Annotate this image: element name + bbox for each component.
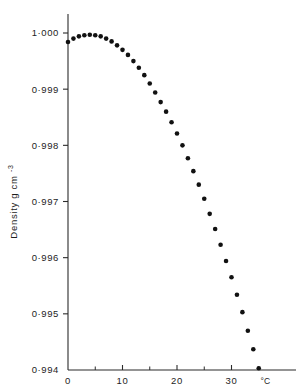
x-tick-label: 0 (65, 375, 71, 386)
density-temperature-figure: 0·9940·9950·9960·9970·9980·9991·000 0102… (0, 0, 304, 392)
data-point (158, 100, 163, 105)
y-tick-label: 0·994 (32, 364, 59, 375)
data-point (191, 169, 196, 174)
scatter-plot: 0·9940·9950·9960·9970·9980·9991·000 0102… (0, 0, 304, 392)
data-point (175, 131, 180, 136)
data-point (120, 48, 125, 53)
data-point (213, 227, 218, 232)
data-point (186, 156, 191, 161)
data-point (197, 182, 202, 187)
y-axis-title: Density g cm -3 (7, 164, 19, 238)
temperature-axis: 0102030°C (65, 365, 296, 386)
data-point (235, 292, 240, 297)
data-point (256, 366, 261, 371)
data-point (137, 66, 142, 71)
data-point (169, 120, 174, 125)
data-point (131, 59, 136, 64)
data-point (82, 33, 87, 38)
data-point (88, 32, 93, 37)
data-point (251, 347, 256, 352)
y-tick-label: 0·998 (32, 140, 59, 151)
data-point (240, 310, 245, 315)
x-axis-unit-label: °C (261, 376, 271, 386)
axis-titles: Density g cm -3 (7, 164, 19, 238)
data-point (142, 73, 147, 78)
data-point (66, 40, 71, 45)
data-point (153, 90, 158, 95)
data-point (147, 81, 152, 86)
data-point (218, 242, 223, 247)
x-tick-label: 30 (226, 375, 238, 386)
data-point (180, 143, 185, 148)
y-tick-label: 0·995 (32, 308, 59, 319)
data-point (71, 36, 76, 41)
data-point (202, 196, 207, 201)
data-point (104, 36, 109, 41)
y-tick-label: 0·999 (32, 84, 59, 95)
y-tick-label: 0·997 (32, 196, 59, 207)
y-tick-label: 1·000 (32, 27, 59, 38)
x-tick-label: 10 (117, 375, 129, 386)
data-point (207, 212, 212, 217)
data-point-series (66, 32, 261, 370)
data-point (115, 43, 120, 48)
density-axis: 0·9940·9950·9960·9970·9980·9991·000 (32, 14, 68, 375)
y-tick-label: 0·996 (32, 252, 59, 263)
data-point (77, 34, 82, 39)
data-point (229, 275, 234, 280)
data-point (246, 328, 251, 333)
data-point (98, 34, 103, 39)
data-point (164, 109, 169, 114)
data-point (126, 53, 131, 58)
data-point (93, 33, 98, 38)
data-point (109, 39, 114, 44)
x-tick-label: 20 (171, 375, 183, 386)
data-point (224, 259, 229, 264)
y-axis-title-exponent: -3 (7, 164, 14, 172)
